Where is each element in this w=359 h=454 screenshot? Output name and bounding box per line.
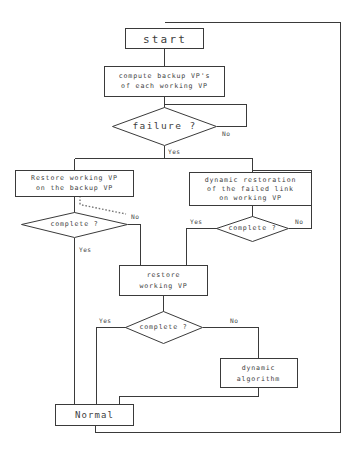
complete-right-label: complete ? (228, 224, 276, 232)
node-start: start (126, 29, 204, 49)
complete-left-no-label: No (131, 213, 139, 220)
complete-left-yes-label: Yes (79, 246, 91, 253)
restore-working-line2: working VP (139, 282, 187, 290)
edge-completeleft-no (128, 225, 141, 266)
node-normal: Normal (56, 405, 134, 426)
edge-completeright-yes (187, 229, 217, 266)
complete-lower-label: complete ? (139, 323, 187, 331)
compute-backup-line1: compute backup VP's (119, 72, 211, 80)
node-compute-backup: compute backup VP's of each working VP (105, 67, 225, 97)
edge-dynalgorithm-return (120, 388, 259, 405)
flowchart-diagram: start compute backup VP's of each workin… (0, 0, 359, 454)
complete-lower-no-label: No (230, 317, 238, 324)
normal-label: Normal (75, 410, 114, 420)
failure-yes-label: Yes (168, 148, 180, 155)
failure-no-label: No (222, 130, 230, 137)
complete-right-no-label: No (295, 218, 303, 225)
node-complete-left: complete ? (22, 213, 128, 238)
node-complete-lower: complete ? (126, 312, 203, 344)
dynamic-restoration-line3: on working VP (219, 194, 282, 202)
flowchart-canvas: start compute backup VP's of each workin… (0, 0, 359, 454)
edge-completelower-yes (97, 328, 126, 405)
edge-failure-yes-split (75, 146, 253, 173)
node-complete-right: complete ? (217, 217, 289, 242)
compute-backup-line2: of each working VP (121, 82, 208, 90)
restore-backup-line1: Restore working VP (31, 174, 118, 182)
node-restore-working: restore working VP (120, 266, 208, 296)
start-label: start (143, 33, 187, 46)
dynamic-restoration-line2: of the failed link (207, 185, 294, 193)
failure-check-label: failure ? (132, 120, 196, 131)
restore-working-line1: restore (147, 271, 181, 279)
dynamic-restoration-line1: dynamic restoration (205, 176, 297, 184)
dynamic-algorithm-line2: algorithm (237, 375, 280, 383)
node-failure-check: failure ? (113, 108, 217, 146)
node-dynamic-restoration: dynamic restoration of the failed link o… (190, 173, 312, 206)
dynamic-algorithm-line1: dynamic (242, 364, 276, 372)
node-dynamic-algorithm: dynamic algorithm (221, 359, 298, 388)
edge-scan-artifact-dotted (80, 196, 126, 214)
node-restore-backup: Restore working VP on the backup VP (16, 171, 134, 197)
complete-right-yes-label: Yes (190, 218, 202, 225)
restore-backup-line2: on the backup VP (36, 184, 113, 192)
complete-lower-yes-label: Yes (99, 317, 111, 324)
complete-left-label: complete ? (50, 220, 98, 228)
restore-working-box (120, 266, 208, 296)
edge-completelower-no (203, 328, 259, 359)
